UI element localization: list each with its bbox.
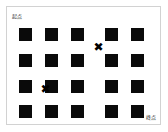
marker-lower-left-icon: ✖	[40, 84, 51, 95]
marker-upper-right-icon: ✖	[93, 42, 104, 53]
grid-cell	[71, 54, 84, 67]
grid-cell	[19, 54, 32, 67]
grid-cell	[131, 28, 144, 41]
grid-cell	[105, 105, 118, 118]
grid-cell	[71, 28, 84, 41]
grid-cell	[105, 80, 118, 93]
diagram-canvas: 起点 终点 ✖✖	[0, 0, 168, 132]
grid-cell	[71, 105, 84, 118]
grid-cell	[131, 80, 144, 93]
grid-cell	[19, 105, 32, 118]
grid-cell	[71, 80, 84, 93]
grid-cell	[19, 28, 32, 41]
grid-cell	[105, 28, 118, 41]
start-point-label: 起点	[12, 13, 22, 19]
end-point-label: 终点	[146, 114, 156, 120]
grid-cell	[131, 54, 144, 67]
grid-cell	[19, 80, 32, 93]
grid-cell	[45, 28, 58, 41]
grid-cell	[105, 54, 118, 67]
grid-cell	[131, 105, 144, 118]
grid-cell	[45, 105, 58, 118]
grid-cell	[45, 54, 58, 67]
